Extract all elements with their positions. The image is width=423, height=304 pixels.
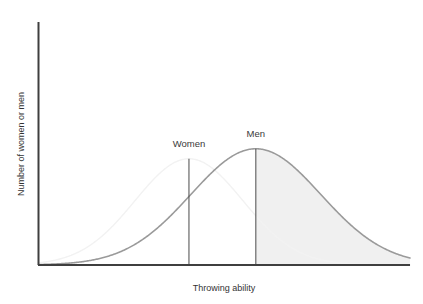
x-axis-label: Throwing ability [193,283,256,293]
men-series-label: Men [247,128,265,139]
y-axis-label: Number of women or men [16,92,26,196]
women-series-label: Women [173,138,206,149]
distribution-chart: Women Men Throwing ability Number of wom… [0,0,423,304]
chart-figure: Women Men Throwing ability Number of wom… [0,0,423,304]
